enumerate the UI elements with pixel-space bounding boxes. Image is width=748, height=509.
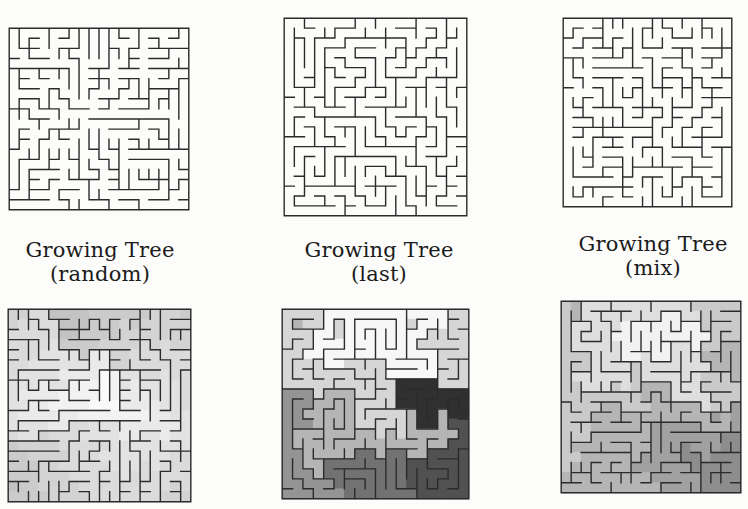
caption-algorithm-name: Growing Tree bbox=[304, 238, 453, 262]
caption-algorithm-name: Growing Tree bbox=[25, 238, 174, 262]
caption-growing-tree-random: Growing Tree (random) bbox=[25, 238, 174, 286]
caption-growing-tree-last: Growing Tree (last) bbox=[304, 238, 453, 286]
maze-plain-growing-tree-mix bbox=[562, 17, 733, 208]
maze-shaded-growing-tree-last bbox=[281, 308, 470, 500]
maze-plain-growing-tree-random bbox=[8, 27, 190, 211]
caption-algorithm-name: Growing Tree bbox=[578, 232, 727, 256]
caption-growing-tree-mix: Growing Tree (mix) bbox=[578, 232, 727, 280]
maze-shaded-growing-tree-random bbox=[7, 308, 192, 503]
maze-shaded-growing-tree-mix bbox=[560, 300, 742, 494]
caption-variant-name: (mix) bbox=[578, 256, 727, 280]
caption-variant-name: (last) bbox=[304, 262, 453, 286]
maze-plain-growing-tree-last bbox=[283, 17, 468, 217]
caption-variant-name: (random) bbox=[25, 262, 174, 286]
growing-tree-maze-figure: Growing Tree (random) Growing Tree (last… bbox=[0, 0, 748, 509]
